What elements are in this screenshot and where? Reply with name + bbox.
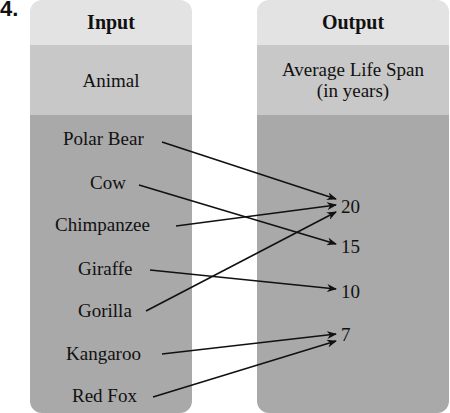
mapping-arrows bbox=[0, 0, 450, 413]
arrow-gorilla-20 bbox=[146, 212, 336, 311]
arrow-giraffe-10 bbox=[150, 270, 336, 289]
arrow-red-fox-7 bbox=[153, 341, 336, 397]
arrow-chimpanzee-20 bbox=[176, 205, 336, 226]
arrow-cow-15 bbox=[139, 185, 336, 244]
arrow-polar-bear-20 bbox=[162, 142, 336, 199]
arrow-kangaroo-7 bbox=[162, 334, 336, 354]
